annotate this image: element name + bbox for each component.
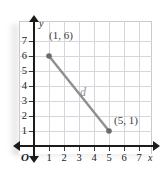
point-label-5-1: (5, 1) <box>114 114 138 126</box>
coordinate-plane-figure: 1 2 3 4 5 6 7 1 2 3 4 5 6 7 y x O (1, 6)… <box>0 0 167 177</box>
point-marker-5-1 <box>106 128 112 134</box>
point-label-1-6: (1, 6) <box>49 29 73 41</box>
segment-length-label-d: d <box>80 85 86 100</box>
segment-d-line <box>49 56 109 131</box>
point-marker-1-6 <box>46 53 52 59</box>
